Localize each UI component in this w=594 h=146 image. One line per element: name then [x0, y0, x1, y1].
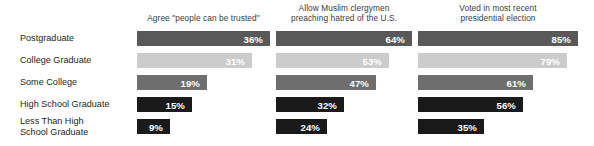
bar-trust-high-school-graduate: 15% [137, 97, 192, 112]
bar-value: 19% [181, 77, 201, 88]
bar-value: 79% [541, 55, 561, 66]
row-label-some-college: Some College [20, 77, 135, 88]
bar-voted-high-school-graduate: 56% [418, 97, 523, 112]
column-header-trust-line1: Agree "people can be trusted" [137, 13, 270, 23]
bar-value: 53% [363, 55, 383, 66]
column-header-voted-line1: Voted in most recent [418, 3, 578, 13]
column-header-voted-line2: presidential election [418, 13, 578, 23]
bar-clergymen-less-than-high-school: 24% [276, 119, 327, 134]
row-label-text: Postgraduate [20, 33, 135, 44]
row-label-text: College Graduate [20, 55, 135, 66]
bar-trust-college-graduate: 31% [137, 53, 252, 68]
bar-value: 32% [318, 99, 338, 110]
row-label-text: Less Than High [20, 116, 135, 127]
row-label-text-2: School Graduate [20, 127, 135, 138]
row-label-text: Some College [20, 77, 135, 88]
bar-trust-postgraduate: 36% [137, 31, 270, 46]
column-header-voted: Voted in most recent presidential electi… [418, 3, 578, 24]
bar-value: 15% [166, 99, 186, 110]
bar-clergymen-college-graduate: 53% [276, 53, 389, 68]
column-header-clergymen-line2: preaching hatred of the U.S. [276, 13, 412, 23]
row-label-text: High School Graduate [20, 99, 135, 110]
bar-clergymen-high-school-graduate: 32% [276, 97, 344, 112]
column-header-clergymen: Allow Muslim clergymen preaching hatred … [276, 3, 412, 24]
bar-value: 64% [386, 33, 406, 44]
bar-voted-some-college: 61% [418, 75, 533, 90]
bar-value: 61% [507, 77, 527, 88]
bar-voted-college-graduate: 79% [418, 53, 567, 68]
education-attitudes-bar-chart: Agree "people can be trusted" Allow Musl… [0, 0, 594, 146]
bar-value: 36% [244, 33, 264, 44]
row-label-college-graduate: College Graduate [20, 55, 135, 66]
bar-trust-less-than-high-school: 9% [137, 119, 170, 134]
bar-value: 31% [226, 55, 246, 66]
bar-value: 56% [497, 99, 517, 110]
bar-value: 24% [301, 121, 321, 132]
bar-clergymen-postgraduate: 64% [276, 31, 412, 46]
row-label-less-than-high-school: Less Than High School Graduate [20, 116, 135, 137]
row-label-high-school-graduate: High School Graduate [20, 99, 135, 110]
bar-value: 47% [350, 77, 370, 88]
column-header-clergymen-line1: Allow Muslim clergymen [276, 3, 412, 13]
bar-voted-postgraduate: 85% [418, 31, 578, 46]
column-header-trust: Agree "people can be trusted" [137, 13, 270, 23]
bar-clergymen-some-college: 47% [276, 75, 376, 90]
bar-value: 85% [552, 33, 572, 44]
row-label-postgraduate: Postgraduate [20, 33, 135, 44]
bar-trust-some-college: 19% [137, 75, 207, 90]
bar-voted-less-than-high-school: 35% [418, 119, 484, 134]
bar-value: 9% [149, 121, 163, 132]
bar-value: 35% [458, 121, 478, 132]
